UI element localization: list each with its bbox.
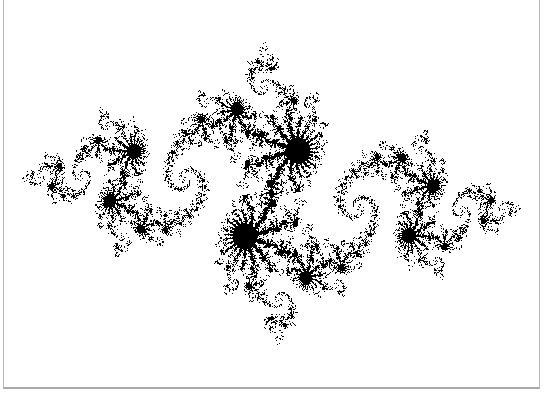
image-frame — [3, 0, 540, 389]
julia-set-fractal-image — [4, 0, 539, 387]
